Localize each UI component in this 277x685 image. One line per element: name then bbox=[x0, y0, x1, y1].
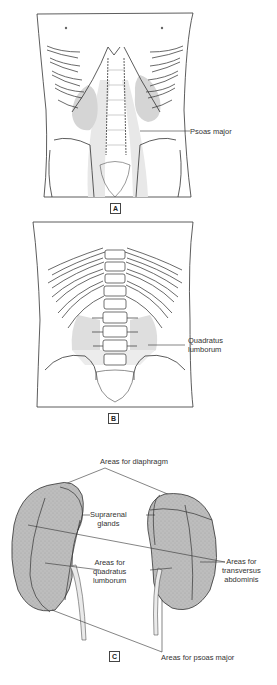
label-areas-for-psoas-major: Areas for psoas major bbox=[161, 653, 234, 662]
label-quadratus-lumborum: Quadratus lumborum bbox=[188, 336, 223, 354]
label-psoas-major: Psoas major bbox=[190, 127, 232, 136]
label-suprarenal-glands: Suprarenal glands bbox=[90, 510, 127, 528]
label-areas-for-diaphragm: Areas for diaphragm bbox=[100, 457, 168, 466]
panel-tag-b: B bbox=[108, 413, 119, 424]
label-areas-for-quadratus-lumborum: Areas for quadratus lumborum bbox=[93, 558, 126, 585]
panel-tag-a: A bbox=[110, 203, 121, 214]
panel-tag-c: C bbox=[109, 651, 120, 662]
label-areas-for-transversus-abdominis: Areas for transversus abdominis bbox=[222, 557, 261, 584]
